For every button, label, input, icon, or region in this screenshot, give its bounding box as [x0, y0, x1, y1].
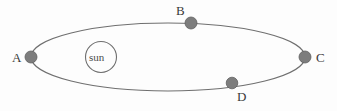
orbit-diagram: A B C D sun [0, 0, 337, 111]
orbit-point-b-label: B [176, 4, 185, 17]
orbit-point-d-dot[interactable] [226, 77, 238, 89]
orbit-point-d-label: D [237, 90, 246, 103]
orbit-point-c-label: C [316, 51, 325, 64]
orbit-point-a-dot[interactable] [25, 51, 37, 63]
orbit-ellipse [31, 23, 305, 91]
sun-label: sun [89, 52, 104, 63]
orbit-svg [0, 0, 337, 111]
orbit-point-b-dot[interactable] [185, 17, 197, 29]
orbit-point-c-dot[interactable] [299, 51, 311, 63]
orbit-point-a-label: A [12, 51, 21, 64]
